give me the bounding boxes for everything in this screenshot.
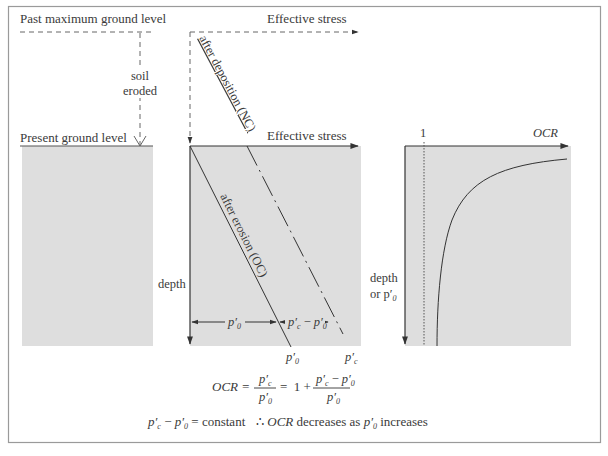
equals-one-plus: = 1 + bbox=[280, 379, 311, 394]
dim-diff-label: p′c − p′0 bbox=[287, 315, 327, 331]
present-ground-level-label: Present ground level bbox=[20, 130, 127, 145]
frac2-numerator: p′c − p′0 bbox=[315, 372, 355, 388]
tick-p0-label: p′0 bbox=[285, 350, 299, 366]
right-panel: 1 OCR depth or p′0 bbox=[370, 126, 571, 346]
ocr-lhs: OCR = bbox=[212, 379, 250, 394]
ocr-diagram: Past maximum ground level soil eroded Pr… bbox=[0, 0, 608, 456]
left-panel: Past maximum ground level soil eroded Pr… bbox=[20, 11, 167, 346]
ocr-one-label: 1 bbox=[420, 126, 426, 140]
ocr-equation: OCR = p′c p′0 = 1 + p′c − p′0 p′0 bbox=[212, 372, 355, 406]
soil-label: soil bbox=[131, 69, 150, 83]
ocr-depth-or-p0-label: or p′0 bbox=[370, 287, 397, 303]
top-effective-stress-label: Effective stress bbox=[267, 11, 347, 26]
tick-pc-label: p′c bbox=[344, 350, 358, 366]
effective-stress-label: Effective stress bbox=[267, 128, 347, 143]
nc-line-label: after deposition (NC) bbox=[196, 33, 259, 134]
eroded-label: eroded bbox=[123, 84, 158, 98]
constant-statement: p′c − p′0 = constant ∴ OCR decreases as … bbox=[147, 414, 428, 431]
past-ground-level-label: Past maximum ground level bbox=[20, 11, 167, 26]
frac1-numerator: p′c bbox=[258, 372, 272, 388]
depth-label: depth bbox=[158, 277, 187, 291]
therefore-statement: ∴ OCR decreases as p′0 increases bbox=[256, 414, 428, 431]
frac2-denominator: p′0 bbox=[326, 390, 340, 406]
soil-block bbox=[22, 146, 153, 346]
frac1-denominator: p′0 bbox=[258, 390, 272, 406]
ocr-axis-label: OCR bbox=[533, 126, 558, 140]
ocr-depth-label: depth bbox=[370, 271, 399, 285]
constant-equation: p′c − p′0 = constant bbox=[147, 414, 246, 431]
ocr-plot-area bbox=[405, 146, 571, 346]
middle-panel: Effective stress after deposition (NC) E… bbox=[158, 11, 361, 366]
